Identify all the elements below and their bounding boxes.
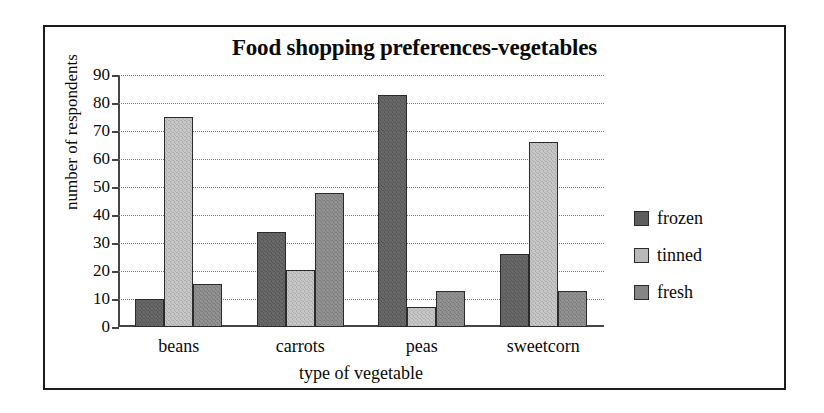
y-axis-tick-label: 20: [93, 261, 110, 281]
y-axis-tick-label: 30: [93, 233, 110, 253]
y-axis-tick: [112, 131, 119, 133]
x-axis-category-label: beans: [158, 336, 199, 357]
bar-beans-tinned: [164, 117, 193, 327]
x-axis-category-label: sweetcorn: [507, 336, 580, 357]
y-axis-tick: [112, 299, 119, 301]
y-axis-title: number of respondents: [62, 27, 82, 237]
bar-peas-fresh: [436, 291, 465, 327]
bar-beans-frozen: [135, 299, 164, 327]
legend-item-fresh: fresh: [634, 274, 764, 311]
bar-carrots-frozen: [257, 232, 286, 327]
y-axis-tick: [112, 187, 119, 189]
y-axis-tick: [112, 271, 119, 273]
y-axis-tick-label: 40: [93, 205, 110, 225]
legend-item-tinned: tinned: [634, 237, 764, 274]
x-axis-category-label: peas: [406, 336, 438, 357]
bar-beans-fresh: [193, 284, 222, 327]
legend-swatch-tinned: [634, 248, 649, 263]
x-axis-title: type of vegetable: [118, 363, 604, 384]
y-axis-tick-label: 60: [93, 149, 110, 169]
bar-sweetcorn-frozen: [500, 254, 529, 327]
y-axis-tick: [112, 75, 119, 77]
gridline: [118, 103, 604, 104]
y-axis-tick: [112, 243, 119, 245]
legend-label-tinned: tinned: [657, 245, 702, 266]
gridline: [118, 75, 604, 76]
y-axis-tick-label: 90: [93, 65, 110, 85]
legend-swatch-fresh: [634, 285, 649, 300]
y-axis-tick-label: 0: [102, 317, 111, 337]
y-axis-tick: [112, 327, 119, 329]
y-axis-tick: [112, 103, 119, 105]
bar-sweetcorn-tinned: [529, 142, 558, 327]
legend-label-fresh: fresh: [657, 282, 693, 303]
y-axis-tick: [112, 159, 119, 161]
y-axis-tick-label: 70: [93, 121, 110, 141]
y-axis-tick-label: 80: [93, 93, 110, 113]
x-axis-category-label: carrots: [276, 336, 325, 357]
y-axis-line: [118, 75, 120, 327]
legend-swatch-frozen: [634, 211, 649, 226]
bar-peas-tinned: [407, 307, 436, 327]
plot-inner: 0102030405060708090beanscarrotspeassweet…: [118, 75, 604, 327]
plot-area: 0102030405060708090beanscarrotspeassweet…: [118, 75, 604, 327]
bar-carrots-fresh: [315, 193, 344, 327]
y-axis-tick: [112, 215, 119, 217]
bar-sweetcorn-fresh: [558, 291, 587, 327]
chart-title: Food shopping preferences-vegetables: [45, 35, 784, 61]
chart-frame: Food shopping preferences-vegetables num…: [43, 25, 786, 390]
legend-item-frozen: frozen: [634, 200, 764, 237]
y-axis-tick-label: 50: [93, 177, 110, 197]
legend-label-frozen: frozen: [657, 208, 703, 229]
bar-carrots-tinned: [286, 270, 315, 327]
chart-legend: frozentinnedfresh: [634, 200, 764, 311]
bar-peas-frozen: [378, 95, 407, 327]
y-axis-tick-label: 10: [93, 289, 110, 309]
